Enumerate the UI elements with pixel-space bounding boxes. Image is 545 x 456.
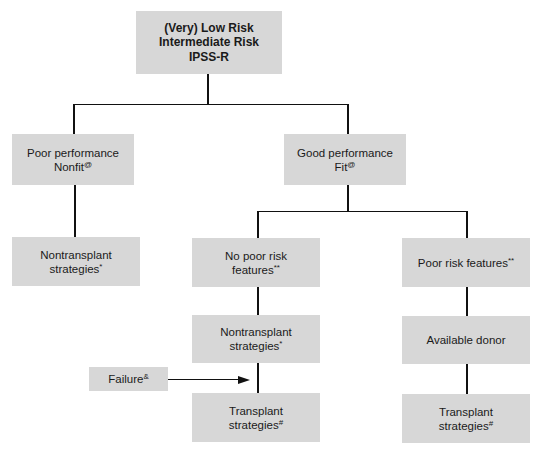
node-transplant-strategies-middle: Transplant strategies#	[192, 393, 320, 442]
connector-root-stem	[207, 74, 209, 104]
root-line-3: IPSS-R	[189, 50, 229, 65]
node-no-poor-risk-features: No poor risk features**	[192, 238, 320, 287]
no-poor-risk-line-1: No poor risk	[225, 249, 287, 263]
poor-performance-line-2: Nonfit@	[54, 160, 92, 174]
root-line-1: (Very) Low Risk	[164, 21, 253, 36]
connector-poor-risk-to-donor	[466, 287, 468, 316]
footnote-marker: &	[143, 372, 148, 381]
connector-good-stem	[347, 185, 349, 211]
node-nontransplant-strategies-left: Nontransplant strategies*	[12, 237, 140, 286]
node-good-performance: Good performance Fit@	[284, 134, 406, 185]
failure-line-1: Failure&	[108, 372, 149, 386]
connector-good-bar	[257, 211, 467, 213]
connector-to-poor-performance	[73, 104, 75, 134]
node-poor-risk-features: Poor risk features**	[402, 238, 530, 287]
connector-root-bar	[73, 104, 348, 106]
node-root-risk-category: (Very) Low Risk Intermediate Risk IPSS-R	[136, 11, 282, 74]
footnote-marker: **	[508, 256, 514, 265]
node-transplant-strategies-right: Transplant strategies#	[402, 394, 530, 443]
footnote-marker: *	[99, 262, 102, 271]
nontransplant-mid-line-2: strategies*	[230, 339, 283, 353]
transplant-mid-line-2: strategies#	[229, 418, 283, 432]
connector-poor-to-nontransplant	[74, 185, 76, 237]
poor-risk-line-1: Poor risk features**	[418, 256, 514, 270]
nontransplant-left-line-2: strategies*	[50, 262, 103, 276]
connector-donor-to-transplant	[466, 364, 468, 394]
footnote-marker: #	[279, 418, 283, 427]
nontransplant-left-line-1: Nontransplant	[40, 248, 112, 262]
arrow-failure-shaft	[168, 379, 240, 381]
transplant-mid-line-1: Transplant	[229, 404, 283, 418]
connector-to-poor-risk	[466, 211, 468, 238]
good-performance-line-2: Fit@	[335, 160, 356, 174]
available-donor-line-1: Available donor	[426, 333, 505, 347]
footnote-marker: **	[274, 263, 280, 272]
node-failure: Failure&	[89, 367, 168, 391]
good-performance-line-1: Good performance	[297, 146, 393, 160]
poor-performance-line-1: Poor performance	[27, 146, 119, 160]
footnote-marker: @	[84, 160, 92, 169]
footnote-marker: *	[279, 339, 282, 348]
node-nontransplant-strategies-middle: Nontransplant strategies*	[192, 315, 320, 363]
connector-to-good-performance	[347, 104, 349, 134]
arrowhead-icon	[238, 376, 250, 384]
no-poor-risk-line-2: features**	[232, 263, 280, 277]
root-line-2: Intermediate Risk	[159, 35, 259, 50]
footnote-marker: #	[489, 419, 493, 428]
connector-no-poor-to-nontransplant	[257, 287, 259, 315]
footnote-marker: @	[347, 160, 355, 169]
connector-to-no-poor-risk	[257, 211, 259, 238]
transplant-right-line-1: Transplant	[439, 405, 493, 419]
node-poor-performance: Poor performance Nonfit@	[12, 134, 134, 185]
nontransplant-mid-line-1: Nontransplant	[220, 325, 292, 339]
node-available-donor: Available donor	[402, 316, 530, 364]
connector-nontransplant-to-transplant	[257, 363, 259, 393]
transplant-right-line-2: strategies#	[439, 419, 493, 433]
